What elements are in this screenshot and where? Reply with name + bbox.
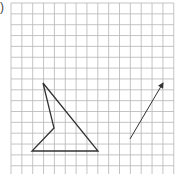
- grid-diagram: [0, 0, 175, 174]
- translation-vector-arrow: [130, 83, 163, 139]
